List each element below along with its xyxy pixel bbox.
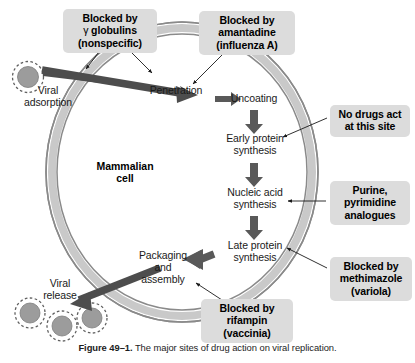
figure-container: Viral adsorption Penetration Uncoating E… bbox=[0, 0, 415, 363]
stage-nucleic-line1: Nucleic acid bbox=[210, 186, 300, 198]
callout-purine-line3: analogues bbox=[335, 209, 405, 221]
stage-early-line2: synthesis bbox=[210, 144, 300, 156]
figure-caption: Figure 49–1. The major sites of drug act… bbox=[0, 342, 415, 353]
callout-methimazole: Blocked by methimazole (variola) bbox=[330, 257, 412, 301]
callout-no-drugs-act-line2: at this site bbox=[335, 120, 405, 132]
stage-penetration-line1: Penetration bbox=[137, 84, 215, 96]
arrow-nucleic-late bbox=[245, 216, 263, 240]
callout-no-drugs-act-line1: No drugs act bbox=[335, 108, 405, 120]
arrow-uncoating-early bbox=[245, 110, 263, 134]
stage-early-protein-synthesis: Early protein synthesis bbox=[210, 132, 300, 156]
callout-methimazole-line3: (variola) bbox=[335, 285, 407, 297]
callout-rifampin-line1: Blocked by bbox=[206, 302, 288, 314]
stage-nucleic-acid-synthesis: Nucleic acid synthesis bbox=[210, 186, 300, 210]
stage-penetration: Penetration bbox=[137, 84, 215, 96]
callout-purine-analogues: Purine, pyrimidine analogues bbox=[330, 181, 410, 225]
pointer-amantadine bbox=[193, 55, 222, 84]
stage-packaging-line3: assembly bbox=[122, 273, 204, 285]
stage-viral-adsorption-line2: adsorption bbox=[10, 96, 86, 108]
arrow-early-nucleic bbox=[245, 163, 263, 187]
stage-viral-adsorption-line1: Viral bbox=[10, 84, 86, 96]
stage-packaging-line1: Packaging bbox=[122, 249, 204, 261]
callout-gamma-globulins-line2: γ globulins bbox=[68, 24, 152, 36]
callout-purine-line2: pyrimidine bbox=[335, 196, 405, 208]
stage-late-line2: synthesis bbox=[210, 251, 300, 263]
stage-nucleic-line2: synthesis bbox=[210, 198, 300, 210]
stage-uncoating-line1: Uncoating bbox=[215, 92, 293, 104]
stage-early-line1: Early protein bbox=[210, 132, 300, 144]
mammalian-cell-label-line1: Mammalian bbox=[82, 160, 168, 172]
callout-gamma-globulins: Blocked by γ globulins (nonspecific) bbox=[63, 9, 157, 53]
mammalian-cell-label-line2: cell bbox=[82, 172, 168, 184]
callout-gamma-globulins-line1: Blocked by bbox=[68, 12, 152, 24]
callout-amantadine: Blocked by amantadine (influenza A) bbox=[199, 11, 295, 55]
callout-amantadine-line3: (influenza A) bbox=[204, 39, 290, 51]
figure-caption-text: The major sites of drug action on viral … bbox=[135, 342, 337, 353]
callout-no-drugs-act: No drugs act at this site bbox=[330, 105, 410, 137]
callout-methimazole-line2: methimazole bbox=[335, 272, 407, 284]
stage-viral-release-line1: Viral bbox=[26, 277, 94, 289]
callout-methimazole-line1: Blocked by bbox=[335, 260, 407, 272]
stage-viral-adsorption: Viral adsorption bbox=[10, 84, 86, 108]
callout-amantadine-line2: amantadine bbox=[204, 26, 290, 38]
gamma-symbol: γ bbox=[83, 24, 88, 36]
stage-viral-release: Viral release bbox=[26, 277, 94, 301]
stage-packaging-and-assembly: Packaging and assembly bbox=[122, 249, 204, 286]
callout-rifampin-line3: (vaccinia) bbox=[206, 327, 288, 339]
virions-released bbox=[15, 298, 107, 341]
stage-viral-release-line2: release bbox=[26, 289, 94, 301]
stage-uncoating: Uncoating bbox=[215, 92, 293, 104]
callout-amantadine-line1: Blocked by bbox=[204, 14, 290, 26]
stage-late-line1: Late protein bbox=[210, 239, 300, 251]
stage-packaging-line2: and bbox=[122, 261, 204, 273]
figure-caption-label: Figure 49–1. bbox=[78, 342, 132, 353]
callout-rifampin-line2: rifampin bbox=[206, 314, 288, 326]
mammalian-cell-label: Mammalian cell bbox=[82, 160, 168, 185]
callout-rifampin: Blocked by rifampin (vaccinia) bbox=[201, 299, 293, 343]
stage-late-protein-synthesis: Late protein synthesis bbox=[210, 239, 300, 263]
callout-gamma-globulins-word: globulins bbox=[91, 24, 137, 36]
callout-gamma-globulins-line3: (nonspecific) bbox=[68, 37, 152, 49]
callout-purine-line1: Purine, bbox=[335, 184, 405, 196]
